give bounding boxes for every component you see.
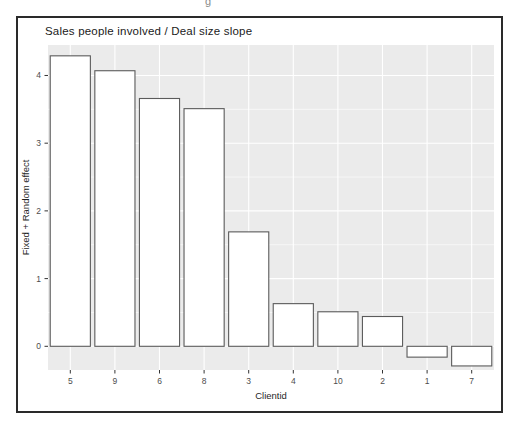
cropped-text-fragment: g [205, 0, 211, 7]
y-axis-title: Fixed + Random effect [20, 159, 31, 255]
x-tick-label: 3 [246, 376, 251, 386]
y-tick-label: 4 [36, 70, 41, 80]
x-axis-title: Clientid [255, 390, 287, 401]
y-tick-label: 2 [36, 206, 41, 216]
bar-clientid-6 [139, 98, 179, 346]
x-tick-label: 7 [469, 376, 474, 386]
x-tick-label: 9 [113, 376, 118, 386]
chart-svg: 0123459683410217ClientidFixed + Random e… [18, 18, 501, 411]
x-tick-label: 8 [202, 376, 207, 386]
bar-chart: 0123459683410217ClientidFixed + Random e… [18, 18, 501, 411]
bar-clientid-5 [50, 56, 90, 346]
bar-clientid-2 [362, 317, 402, 347]
y-tick-label: 1 [36, 274, 41, 284]
x-tick-label: 2 [380, 376, 385, 386]
figure-frame: Sales people involved / Deal size slope … [16, 16, 503, 413]
x-tick-label: 6 [157, 376, 162, 386]
y-tick-label: 0 [36, 341, 41, 351]
bar-clientid-3 [229, 232, 269, 346]
bar-clientid-7 [452, 346, 492, 366]
x-tick-label: 10 [333, 376, 343, 386]
bar-clientid-1 [407, 346, 447, 357]
x-tick-label: 4 [291, 376, 296, 386]
bar-clientid-8 [184, 109, 224, 347]
page: g Sales people involved / Deal size slop… [0, 0, 516, 434]
x-tick-label: 1 [425, 376, 430, 386]
bar-clientid-4 [273, 304, 313, 347]
bar-clientid-10 [318, 312, 358, 347]
bar-clientid-9 [95, 71, 135, 347]
x-tick-label: 5 [68, 376, 73, 386]
y-tick-label: 3 [36, 138, 41, 148]
